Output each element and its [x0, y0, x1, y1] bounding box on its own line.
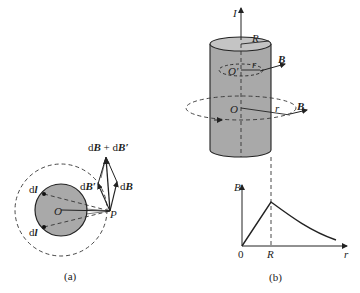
point-p-label: P [109, 208, 117, 220]
figure-a: dB + dB′ dB′ dB dl dl O P (a) [15, 141, 133, 283]
figure-b: I R O′ r B O r B B r 0 R (b) [186, 7, 349, 284]
inner-r-label: r [252, 58, 257, 70]
dB-prime-label: dB′ [80, 180, 96, 192]
dl-bottom-label: dl [29, 226, 39, 238]
inner-B-label: B [277, 53, 285, 65]
current-label: I [232, 7, 238, 19]
b-curve [242, 202, 336, 246]
dl-top-label: dl [29, 183, 39, 195]
center-o-label: O [54, 205, 62, 217]
dB-label: dB [120, 180, 133, 192]
outer-r-label: r [275, 102, 280, 114]
y-axis-label: B [234, 181, 241, 193]
inner-center-label: O′ [228, 65, 239, 77]
x-tick-R: R [266, 248, 274, 260]
radius-label: R [251, 32, 259, 44]
dB-vector [110, 182, 117, 211]
outer-center-label: O [230, 103, 238, 115]
outer-B-label: B [296, 100, 304, 112]
b-vs-r-chart: B r 0 R [234, 181, 349, 260]
diagram-canvas: dB + dB′ dB′ dB dl dl O P (a) I R O′ r B… [0, 0, 360, 293]
dl-bottom-dot [42, 225, 46, 229]
caption-b: (b) [269, 271, 282, 284]
dl-top-dot [42, 192, 46, 196]
sum-label: dB + dB′ [88, 141, 129, 153]
cylinder-body [210, 44, 271, 157]
x-tick-0: 0 [238, 248, 244, 260]
caption-a: (a) [64, 270, 77, 283]
x-axis-label: r [344, 248, 349, 260]
